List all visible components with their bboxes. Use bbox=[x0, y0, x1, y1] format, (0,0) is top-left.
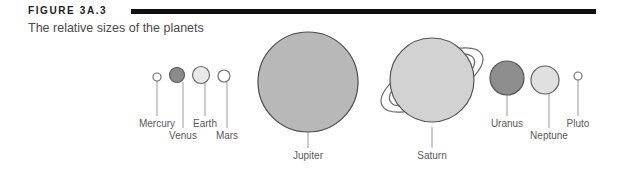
planet-venus bbox=[170, 68, 185, 83]
planet-pluto bbox=[574, 72, 582, 80]
planet-uranus bbox=[490, 61, 524, 95]
planet-label-uranus: Uranus bbox=[491, 118, 523, 130]
planet-neptune bbox=[531, 66, 559, 94]
planet-bodies-group bbox=[153, 32, 582, 132]
planet-mercury bbox=[153, 73, 161, 81]
planet-label-venus: Venus bbox=[169, 130, 197, 142]
planet-label-saturn: Saturn bbox=[417, 150, 446, 162]
figure-panel: FIGURE 3A.3 The relative sizes of the pl… bbox=[0, 0, 617, 169]
planet-label-earth: Earth bbox=[193, 118, 217, 130]
planet-saturn bbox=[390, 38, 474, 122]
planet-earth bbox=[193, 67, 210, 84]
planet-label-jupiter: Jupiter bbox=[293, 150, 323, 162]
planet-mars bbox=[218, 70, 230, 82]
planet-label-pluto: Pluto bbox=[567, 118, 590, 130]
planet-label-mars: Mars bbox=[216, 130, 238, 142]
planet-size-diagram bbox=[0, 0, 617, 169]
planet-jupiter bbox=[258, 32, 358, 132]
planet-label-mercury: Mercury bbox=[139, 118, 175, 130]
planet-label-neptune: Neptune bbox=[530, 130, 568, 142]
